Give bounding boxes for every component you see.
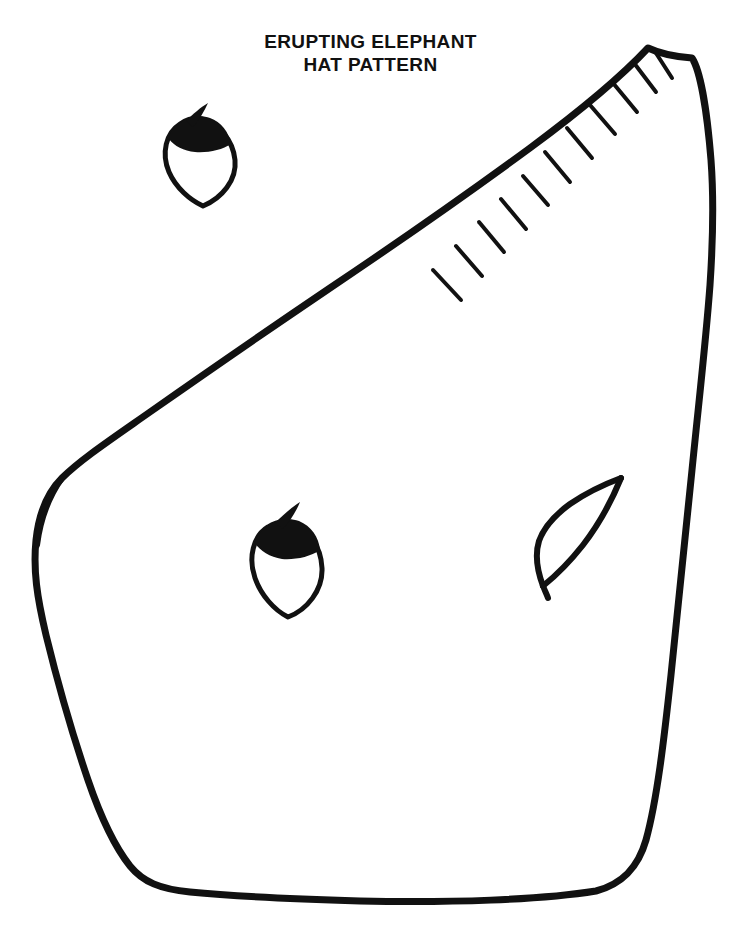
hatch-mark	[590, 105, 615, 134]
small-ear-piece	[165, 103, 235, 206]
large-ear-cap	[255, 519, 320, 559]
pattern-page: ERUPTING ELEPHANT HAT PATTERN	[0, 0, 741, 947]
tusk-leaf-hook	[543, 586, 548, 598]
hatch-mark	[613, 83, 637, 112]
hatch-mark	[433, 270, 461, 300]
hatch-mark	[634, 63, 656, 92]
hatch-mark	[545, 152, 570, 182]
tusk-leaf-piece	[537, 478, 621, 598]
hatch-mark	[501, 199, 526, 229]
hatch-mark	[567, 128, 592, 158]
small-ear-cap	[169, 116, 231, 152]
hatch-mark	[523, 176, 548, 205]
pattern-drawing	[0, 0, 741, 947]
large-ear-piece	[252, 502, 322, 617]
tusk-leaf-inner-curve	[537, 478, 621, 586]
hatch-mark	[456, 246, 482, 276]
hatch-mark	[479, 222, 504, 252]
fringe-hatch-marks	[433, 50, 672, 300]
elephant-head-body-outline	[35, 48, 713, 902]
